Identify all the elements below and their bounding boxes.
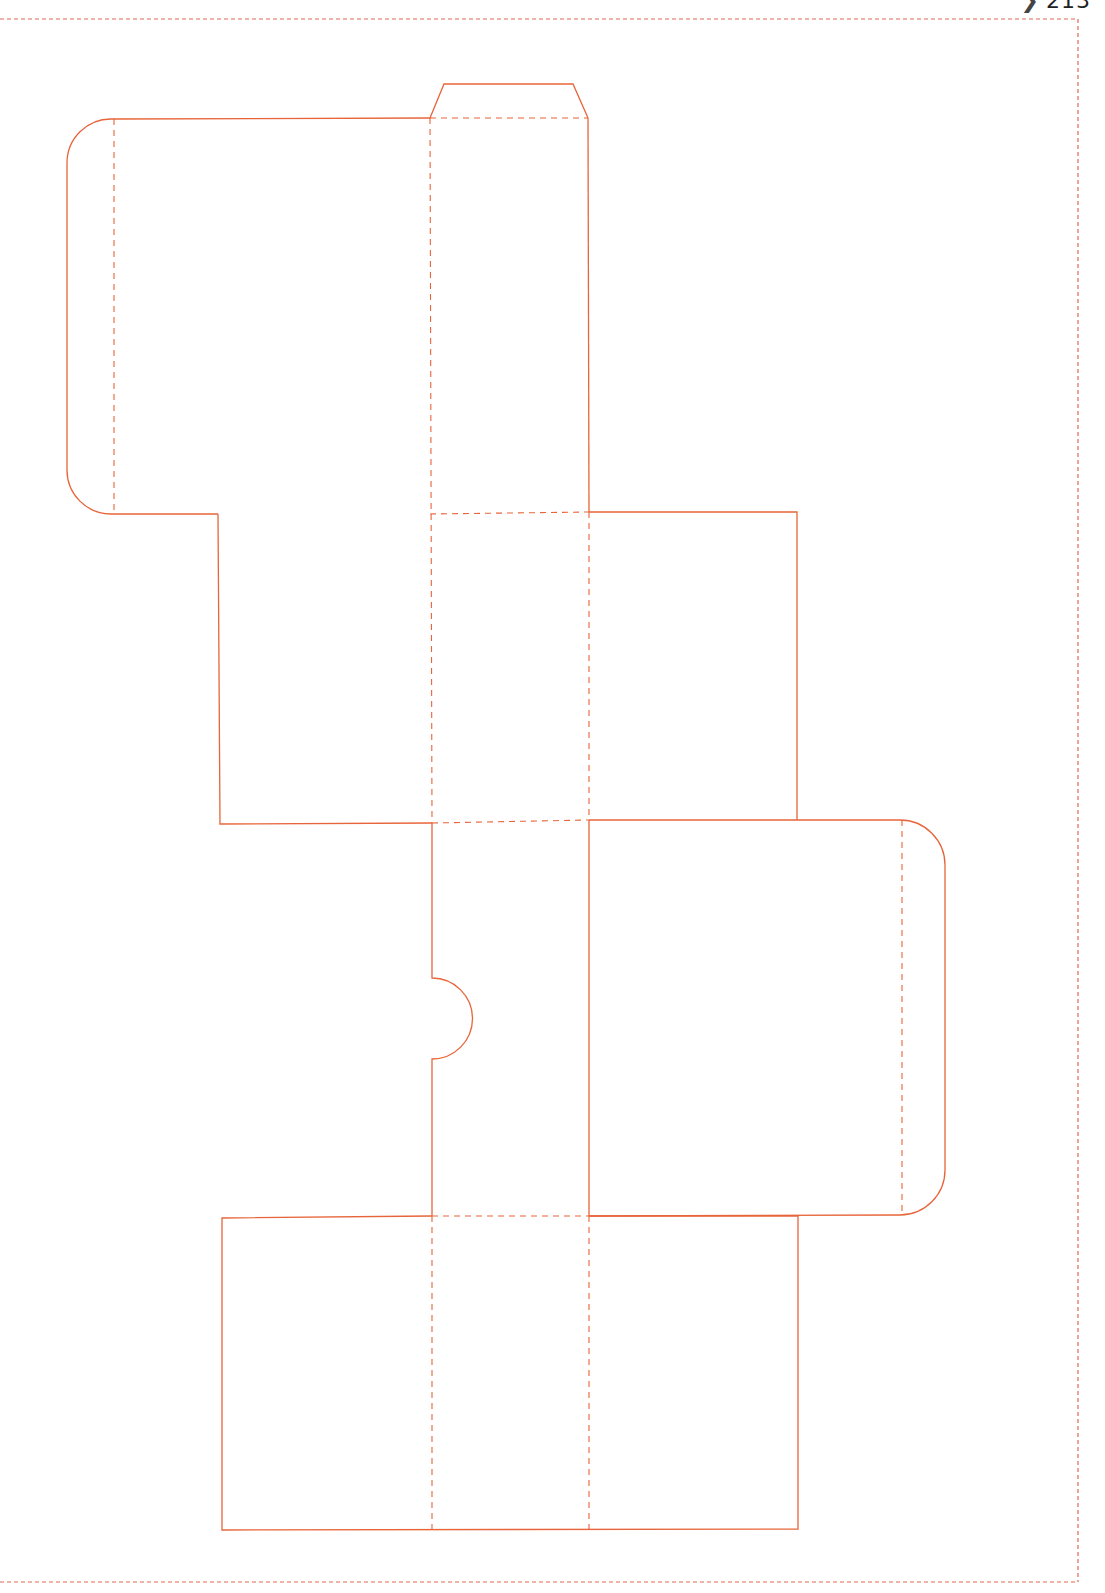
page-border xyxy=(0,19,1078,1582)
box-net-template xyxy=(0,0,1105,1593)
cut-lines xyxy=(67,84,945,1530)
